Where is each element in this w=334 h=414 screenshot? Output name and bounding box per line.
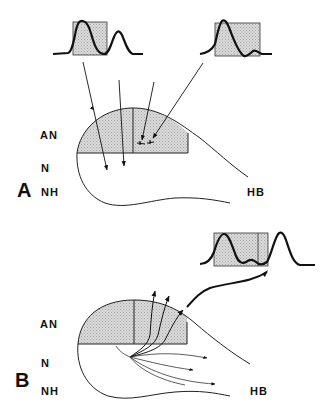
label-n-b: N bbox=[41, 358, 50, 369]
label-nh-a: NH bbox=[41, 187, 59, 198]
diagram-canvas bbox=[0, 0, 334, 414]
bold-arrow bbox=[187, 272, 267, 307]
outline-bottom bbox=[77, 153, 230, 205]
an-region bbox=[78, 300, 187, 344]
waveform-b1 bbox=[200, 233, 315, 266]
panel-label-b: B bbox=[15, 370, 29, 390]
shaded-window bbox=[214, 233, 268, 266]
label-nh-b: NH bbox=[41, 386, 59, 397]
panel-label-a: A bbox=[17, 180, 31, 200]
label-hb-b: HB bbox=[250, 386, 268, 397]
label-hb-a: HB bbox=[247, 187, 265, 198]
label-an-b: AN bbox=[40, 319, 58, 330]
waveform-a1 bbox=[53, 21, 143, 55]
shaded-window bbox=[73, 22, 107, 55]
label-an-a: AN bbox=[40, 130, 58, 141]
waveform-a2 bbox=[200, 20, 272, 56]
label-n-a: N bbox=[41, 163, 50, 174]
arrow bbox=[130, 357, 215, 384]
panel-a bbox=[53, 20, 272, 205]
panel-b bbox=[78, 233, 315, 399]
